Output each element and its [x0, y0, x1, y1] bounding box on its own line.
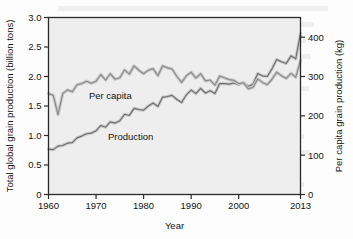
plot-area-background [49, 18, 301, 195]
y-left-tick-label-3.0: 3.0 [28, 12, 41, 23]
y-left-tick-label-1.0: 1.0 [28, 130, 41, 141]
x-tick-label-1990: 1990 [181, 200, 202, 211]
y-left-tick-label-0.5: 0.5 [28, 159, 41, 170]
y-left-tick-label-0: 0 [36, 189, 41, 200]
x-tick-label-2000: 2000 [228, 200, 249, 211]
grain-production-chart: 00.51.01.52.02.53.0010020030040019601970… [0, 0, 353, 239]
x-tick-label-1980: 1980 [133, 200, 154, 211]
series-annotation-production: Production [108, 131, 153, 142]
y-right-tick-label-300: 300 [308, 71, 324, 82]
x-tick-label-2013: 2013 [290, 200, 311, 211]
y-left-tick-label-2.5: 2.5 [28, 41, 41, 52]
x-tick-label-1970: 1970 [85, 200, 106, 211]
y-right-tick-label-0: 0 [308, 189, 313, 200]
y-right-tick-label-100: 100 [308, 150, 324, 161]
y-axis-left-title: Total global grain production (billion t… [4, 20, 15, 193]
series-annotation-per-capita: Per capita [89, 90, 132, 101]
figure-container: 00.51.01.52.02.53.0010020030040019601970… [0, 0, 353, 239]
y-right-tick-label-200: 200 [308, 110, 324, 121]
x-axis-title: Year [165, 220, 184, 231]
y-left-tick-label-1.5: 1.5 [28, 100, 41, 111]
x-tick-label-1960: 1960 [38, 200, 59, 211]
y-right-tick-label-400: 400 [308, 32, 324, 43]
y-axis-right-title: Per capita grain production (kg) [333, 40, 344, 173]
y-left-tick-label-2.0: 2.0 [28, 71, 41, 82]
